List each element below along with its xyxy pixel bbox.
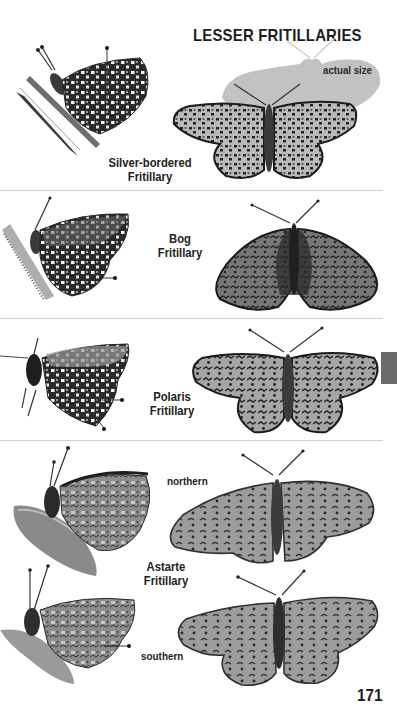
species-name-line1: Bog bbox=[153, 232, 207, 246]
section-thumb-tab[interactable] bbox=[381, 352, 397, 384]
polaris-upperside-image bbox=[192, 322, 382, 437]
species-name-line2: Fritillary bbox=[143, 404, 201, 418]
astarte-northern-upperside-image bbox=[163, 445, 383, 570]
form-label-southern: southern bbox=[141, 650, 183, 662]
form-label-northern: northern bbox=[167, 475, 208, 487]
silver-bordered-upperside-image bbox=[170, 90, 370, 190]
actual-size-label: actual size bbox=[323, 64, 372, 76]
bog-upperside-image bbox=[210, 195, 390, 315]
species-name-line1: Polaris bbox=[143, 390, 201, 404]
species-name-line2: Fritillary bbox=[153, 246, 207, 260]
page-number: 171 bbox=[357, 686, 383, 706]
species-name-line2: Fritillary bbox=[101, 170, 200, 184]
astarte-northern-underside-image bbox=[0, 440, 170, 580]
species-name-silver-bordered: Silver-bordered Fritillary bbox=[101, 156, 200, 184]
species-name-line1: Silver-bordered bbox=[101, 156, 200, 170]
polaris-underside-image bbox=[0, 318, 200, 443]
astarte-southern-underside-image bbox=[0, 560, 170, 690]
species-name-polaris: Polaris Fritillary bbox=[143, 390, 201, 418]
astarte-southern-upperside-image bbox=[176, 565, 386, 690]
species-name-bog: Bog Fritillary bbox=[153, 232, 207, 260]
